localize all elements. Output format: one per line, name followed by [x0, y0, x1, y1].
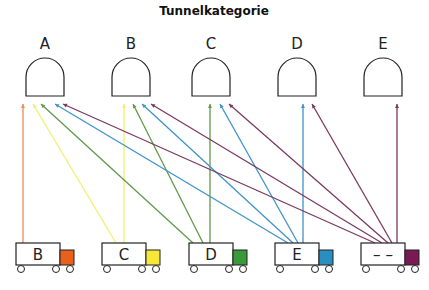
arrowhead-icon [301, 104, 305, 108]
truck-4: E [275, 243, 333, 273]
wheel-icon [226, 266, 233, 273]
tunnel-a: A [26, 35, 64, 96]
truck-2: C [102, 243, 160, 273]
truck-label: C [119, 246, 129, 264]
truck-1: B [16, 243, 74, 273]
truck-5: – – [361, 243, 419, 273]
wheel-icon [53, 266, 60, 273]
truck-label: – – [373, 246, 393, 264]
tunnel-category-diagram: Tunnelkategorie ABCDE BCDE– – [0, 0, 429, 290]
tunnel-c: C [192, 35, 230, 96]
truck-cab [233, 250, 247, 265]
arrowhead-icon [21, 104, 25, 108]
tunnel-label: E [378, 35, 387, 53]
truck-label: B [33, 246, 43, 264]
arrow-line [133, 104, 203, 243]
tunnel-icon [192, 58, 230, 96]
truck-cab [319, 250, 333, 265]
tunnel-label: C [206, 35, 216, 53]
truck-cab [405, 250, 419, 265]
arrow-line [151, 104, 382, 243]
diagram-title: Tunnelkategorie [159, 4, 269, 18]
arrow-line [41, 104, 193, 243]
wheel-icon [326, 266, 333, 273]
wheel-icon [412, 266, 419, 273]
tunnel-label: B [126, 35, 136, 53]
truck-label: D [205, 246, 217, 264]
wheel-icon [277, 266, 284, 273]
tunnel-b: B [112, 35, 150, 96]
wheel-icon [67, 266, 74, 273]
truck-label: E [292, 246, 301, 264]
tunnel-label: A [40, 35, 51, 53]
arrow-line [220, 104, 298, 243]
truck-cab [60, 250, 74, 265]
wheel-icon [398, 266, 405, 273]
wheel-icon [153, 266, 160, 273]
tunnel-e: E [364, 35, 402, 96]
arrow-line [312, 104, 392, 243]
tunnel-label: D [291, 35, 303, 53]
tunnels-group: ABCDE [26, 35, 402, 96]
arrow-line [63, 104, 375, 243]
wheel-icon [104, 266, 111, 273]
wheel-icon [18, 266, 25, 273]
truck-3: D [189, 243, 247, 273]
wheel-icon [139, 266, 146, 273]
wheel-icon [240, 266, 247, 273]
tunnel-icon [364, 58, 402, 96]
arrowhead-icon [122, 104, 126, 108]
wheel-icon [363, 266, 370, 273]
tunnel-icon [112, 58, 150, 96]
arrowhead-icon [395, 104, 399, 108]
arrow-line [33, 104, 116, 243]
wheel-icon [191, 266, 198, 273]
wheel-icon [312, 266, 319, 273]
arrows-group [21, 104, 399, 243]
trucks-group: BCDE– – [16, 243, 419, 273]
truck-cab [146, 250, 160, 265]
tunnel-icon [278, 58, 316, 96]
tunnel-icon [26, 58, 64, 96]
arrowhead-icon [208, 104, 212, 108]
tunnel-d: D [278, 35, 316, 96]
